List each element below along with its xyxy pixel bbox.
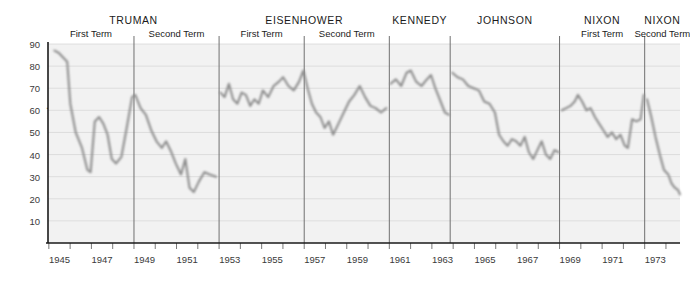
- president-name-johnson-3: JOHNSON: [477, 14, 533, 26]
- x-axis-tick-label: 1947: [91, 254, 112, 265]
- term-label: Second Term: [634, 28, 690, 39]
- term-label: First Term: [70, 28, 112, 39]
- x-axis-tick-label: 1965: [475, 254, 496, 265]
- president-name-truman-0: TRUMAN: [109, 14, 158, 26]
- y-axis-tick-label: 10: [10, 215, 40, 226]
- x-axis-tick-label: 1973: [645, 254, 666, 265]
- term-label: Second Term: [319, 28, 375, 39]
- x-axis-tick-label: 1963: [432, 254, 453, 265]
- term-label: Second Term: [149, 28, 205, 39]
- x-axis-tick-label: 1953: [219, 254, 240, 265]
- x-axis-tick-label: 1949: [134, 254, 155, 265]
- president-name-nixon-4: NIXON: [584, 14, 620, 26]
- y-axis-tick-label: 60: [10, 105, 40, 116]
- x-axis-tick-label: 1957: [304, 254, 325, 265]
- y-axis-tick-label: 20: [10, 193, 40, 204]
- term-label: First Term: [581, 28, 623, 39]
- x-axis-tick-label: 1971: [602, 254, 623, 265]
- x-axis-tick-label: 1945: [49, 254, 70, 265]
- x-axis-tick-label: 1969: [560, 254, 581, 265]
- x-axis-tick-label: 1951: [177, 254, 198, 265]
- y-axis-tick-label: 80: [10, 61, 40, 72]
- y-axis-tick-label: 30: [10, 171, 40, 182]
- x-axis-tick-label: 1959: [347, 254, 368, 265]
- y-axis-tick-label: 90: [10, 39, 40, 50]
- y-axis-tick-label: 40: [10, 149, 40, 160]
- y-axis-tick-label: 50: [10, 127, 40, 138]
- president-name-eisenhower-1: EISENHOWER: [265, 14, 343, 26]
- term-label: First Term: [241, 28, 283, 39]
- x-axis-tick-label: 1955: [262, 254, 283, 265]
- y-axis-tick-label: 70: [10, 83, 40, 94]
- x-axis-tick-label: 1967: [517, 254, 538, 265]
- president-name-nixon-5: NIXON: [644, 14, 680, 26]
- plot-background: [48, 44, 680, 243]
- x-axis-tick-label: 1961: [389, 254, 410, 265]
- president-name-kennedy-2: KENNEDY: [392, 14, 447, 26]
